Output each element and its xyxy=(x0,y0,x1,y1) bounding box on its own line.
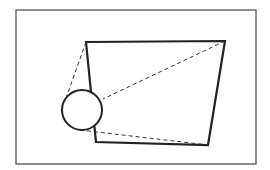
diagram-canvas xyxy=(0,0,270,170)
quadrilateral-shape xyxy=(86,41,225,145)
circle-shape xyxy=(62,90,102,130)
outer-frame xyxy=(16,10,256,164)
dashed-line-2 xyxy=(103,41,225,99)
